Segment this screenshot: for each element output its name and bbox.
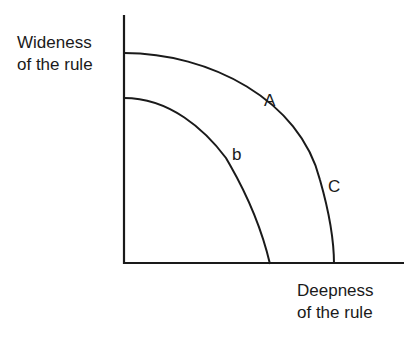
y-axis-label-line1: Wideness — [17, 32, 93, 54]
y-axis-label: Wideness of the rule — [17, 32, 93, 76]
outer-curve — [124, 53, 334, 264]
x-axis-label-line1: Deepness — [297, 280, 374, 302]
point-label-a: A — [264, 92, 275, 110]
x-axis-label: Deepness of the rule — [297, 280, 374, 324]
inner-curve — [124, 98, 270, 264]
x-axis-label-line2: of the rule — [297, 302, 374, 324]
point-label-b: b — [232, 146, 241, 164]
point-label-c: C — [328, 178, 340, 196]
y-axis-label-line2: of the rule — [17, 54, 93, 76]
